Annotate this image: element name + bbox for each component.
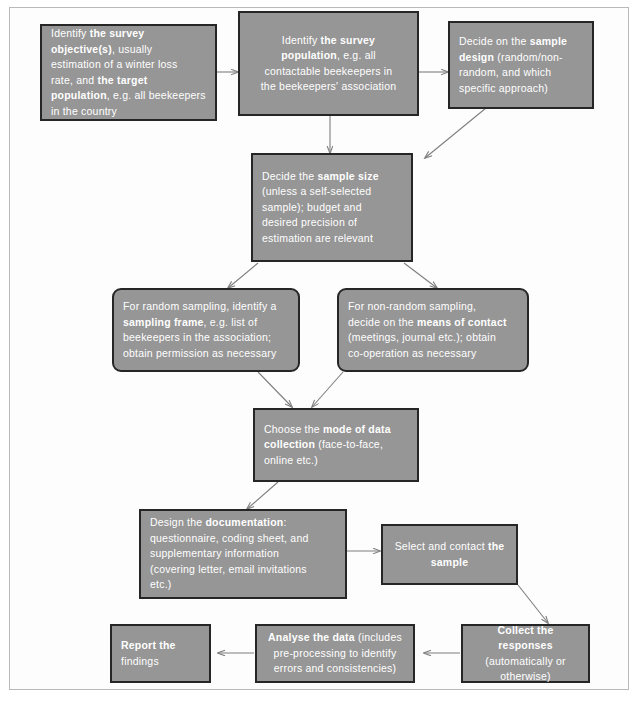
- node-text-line: (unless a self-selected: [262, 184, 402, 200]
- node-text-line: collection (face-to-face,: [264, 437, 408, 453]
- node-decide-sample-size[interactable]: Decide the sample size(unless a self-sel…: [251, 153, 413, 262]
- node-text-line: Collect the responses: [472, 623, 579, 654]
- node-text-line: questionnaire, coding sheet, and: [150, 531, 336, 547]
- node-text-line: sample); budget and: [262, 200, 402, 216]
- node-text-line: etc.): [150, 577, 336, 593]
- node-text-line: contactable beekeepers in: [249, 64, 408, 80]
- node-text-line: Identify the survey: [249, 33, 408, 49]
- node-text-line: pre-processing to identify: [266, 646, 404, 662]
- flowchart-canvas: Identify the surveyobjective(s), usually…: [0, 0, 640, 701]
- node-text-line: (covering letter, email invitations: [150, 562, 336, 578]
- node-random-sampling-frame[interactable]: For random sampling, identify asampling …: [112, 288, 300, 372]
- node-report-the-findings[interactable]: Report thefindings: [110, 624, 211, 683]
- node-text-line: Report the: [121, 638, 200, 654]
- node-text-line: rate, and the target: [51, 73, 206, 89]
- node-text-line: Decide on the sample: [459, 34, 583, 50]
- node-collect-the-responses[interactable]: Collect the responses(automatically orot…: [461, 624, 590, 683]
- node-text-line: sample: [392, 555, 507, 571]
- node-text-line: specific approach): [459, 81, 583, 97]
- node-text-line: beekeepers in the association;: [123, 330, 289, 346]
- node-text-line: supplementary information: [150, 546, 336, 562]
- node-text-line: findings: [121, 654, 200, 670]
- node-decide-sample-design[interactable]: Decide on the sampledesign (random/non-r…: [448, 21, 594, 109]
- node-text-line: Choose the mode of data: [264, 422, 408, 438]
- node-text-line: For non-random sampling,: [348, 299, 518, 315]
- node-text-line: For random sampling, identify a: [123, 299, 289, 315]
- node-text-line: Design the documentation:: [150, 515, 336, 531]
- node-design-the-documentation[interactable]: Design the documentation:questionnaire, …: [139, 509, 347, 599]
- node-text-line: Select and contact the: [392, 539, 507, 555]
- node-text-line: Identify the survey: [51, 26, 206, 42]
- node-text-line: Analyse the data (includes: [266, 630, 404, 646]
- node-text-line: (automatically or: [472, 654, 579, 670]
- node-text-line: the beekeepers' association: [249, 79, 408, 95]
- node-identify-survey-population[interactable]: Identify the surveypopulation, e.g. allc…: [238, 11, 419, 116]
- node-identify-survey-objective[interactable]: Identify the surveyobjective(s), usually…: [40, 24, 217, 121]
- node-text-line: obtain permission as necessary: [123, 346, 289, 362]
- node-text-line: objective(s), usually: [51, 42, 206, 58]
- node-text-line: population, e.g. all beekeepers: [51, 88, 206, 104]
- node-text-line: estimation of a winter loss: [51, 57, 206, 73]
- node-text-line: decide on the means of contact: [348, 315, 518, 331]
- node-select-and-contact-sample[interactable]: Select and contact thesample: [381, 524, 518, 585]
- node-text-line: desired precision of: [262, 215, 402, 231]
- node-text-line: estimation are relevant: [262, 231, 402, 247]
- node-text-line: otherwise): [472, 669, 579, 685]
- node-text-line: online etc.): [264, 453, 408, 469]
- node-text-line: in the country: [51, 104, 206, 120]
- node-text-line: random, and which: [459, 65, 583, 81]
- node-analyse-the-data[interactable]: Analyse the data (includespre-processing…: [255, 624, 415, 683]
- node-text-line: Decide the sample size: [262, 169, 402, 185]
- node-text-line: (meetings, journal etc.); obtain: [348, 330, 518, 346]
- node-non-random-means-of-contact[interactable]: For non-random sampling,decide on the me…: [337, 288, 529, 372]
- node-text-line: co-operation as necessary: [348, 346, 518, 362]
- node-text-line: design (random/non-: [459, 50, 583, 66]
- node-text-line: population, e.g. all: [249, 48, 408, 64]
- node-text-line: sampling frame, e.g. list of: [123, 315, 289, 331]
- node-text-line: errors and consistencies): [266, 661, 404, 677]
- node-choose-mode-of-data-collection[interactable]: Choose the mode of datacollection (face-…: [253, 408, 419, 482]
